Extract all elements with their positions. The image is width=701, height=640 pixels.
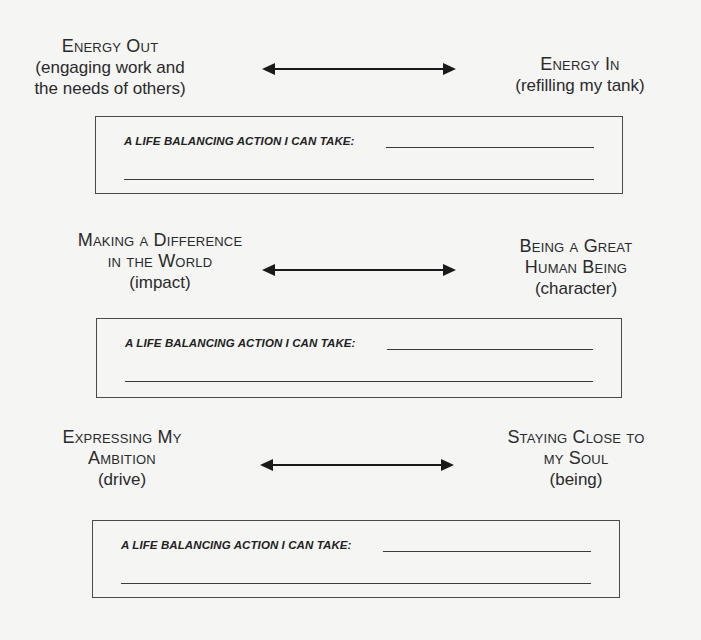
action-input-line-1[interactable]: [386, 147, 594, 148]
section-2-left-title-line-1: Making a Difference: [78, 230, 243, 251]
action-input-line-1[interactable]: [383, 551, 591, 552]
action-input-line-2[interactable]: [125, 381, 593, 382]
section-3-left-title-line-1: Expressing My: [62, 427, 181, 448]
section-3-left-label: Expressing My Ambition (drive): [62, 427, 181, 490]
section-1-left-label: Energy Out (engaging work and the needs …: [34, 36, 185, 99]
section-2-left-label: Making a Difference in the World (impact…: [78, 230, 243, 293]
section-3-action-box: A LIFE BALANCING ACTION I CAN TAKE:: [92, 520, 620, 598]
section-1-action-box: A LIFE BALANCING ACTION I CAN TAKE:: [95, 116, 623, 194]
section-1-left-subtitle-line-1: (engaging work and: [34, 57, 185, 78]
action-prompt: A LIFE BALANCING ACTION I CAN TAKE:: [125, 337, 356, 349]
section-3-right-subtitle: (being): [507, 469, 644, 490]
section-2-right-subtitle: (character): [520, 278, 633, 299]
action-prompt: A LIFE BALANCING ACTION I CAN TAKE:: [124, 135, 355, 147]
section-3-left-subtitle: (drive): [62, 469, 181, 490]
section-3-right-title-line-1: Staying Close to: [507, 427, 644, 448]
section-1-right-subtitle: (refilling my tank): [515, 75, 644, 96]
section-3-right-label: Staying Close to my Soul (being): [507, 427, 644, 490]
section-3-right-title-line-2: my Soul: [507, 448, 644, 469]
double-arrow-icon: [260, 458, 454, 472]
double-arrow-icon: [262, 263, 456, 277]
action-input-line-2[interactable]: [121, 583, 591, 584]
action-prompt: A LIFE BALANCING ACTION I CAN TAKE:: [121, 539, 352, 551]
section-1-right-title: Energy In: [515, 54, 644, 75]
section-2-right-title-line-1: Being a Great: [520, 236, 633, 257]
double-arrow-icon: [262, 62, 456, 76]
section-1-left-subtitle-line-2: the needs of others): [34, 78, 185, 99]
section-1-left-title: Energy Out: [34, 36, 185, 57]
section-2-right-label: Being a Great Human Being (character): [520, 236, 633, 299]
section-1-right-label: Energy In (refilling my tank): [515, 54, 644, 96]
section-2-action-box: A LIFE BALANCING ACTION I CAN TAKE:: [96, 318, 622, 398]
action-input-line-1[interactable]: [387, 349, 593, 350]
section-3-left-title-line-2: Ambition: [62, 448, 181, 469]
section-2-right-title-line-2: Human Being: [520, 257, 633, 278]
action-input-line-2[interactable]: [124, 179, 594, 180]
section-2-left-title-line-2: in the World: [78, 251, 243, 272]
section-2-left-subtitle: (impact): [78, 272, 243, 293]
